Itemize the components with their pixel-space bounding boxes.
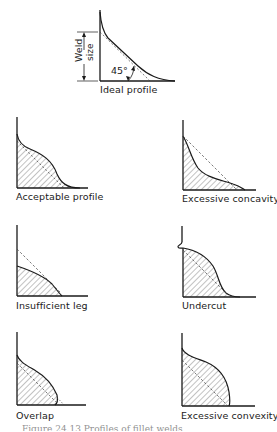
undercut-label: Undercut xyxy=(182,300,226,311)
excessive-concavity-label: Excessive concavity xyxy=(182,193,277,204)
insufficient-leg-label: Insufficient leg xyxy=(16,300,88,311)
excessive-convexity-diagram xyxy=(182,333,255,406)
overlap-diagram xyxy=(17,332,86,405)
weld-size-label-size: size xyxy=(85,44,95,61)
excessive-convexity-label: Excessive convexity xyxy=(181,410,277,421)
acceptable-profile-label: Acceptable profile xyxy=(16,191,104,202)
figure-caption: Figure 24.13 Profiles of fillet welds xyxy=(22,424,183,432)
acceptable-profile-diagram xyxy=(17,117,88,188)
angle-label: 45° xyxy=(111,65,128,76)
insufficient-leg-diagram xyxy=(17,225,88,296)
undercut-diagram xyxy=(178,226,256,297)
profiles-drawing xyxy=(0,0,277,432)
excessive-concavity-diagram xyxy=(183,120,256,190)
weld-size-label-weld: Weld xyxy=(73,39,84,62)
ideal-profile-label: Ideal profile xyxy=(100,84,157,95)
overlap-label: Overlap xyxy=(16,410,54,421)
weld-profiles-figure: Weld size 45° Ideal profile Acceptable p… xyxy=(0,0,277,432)
